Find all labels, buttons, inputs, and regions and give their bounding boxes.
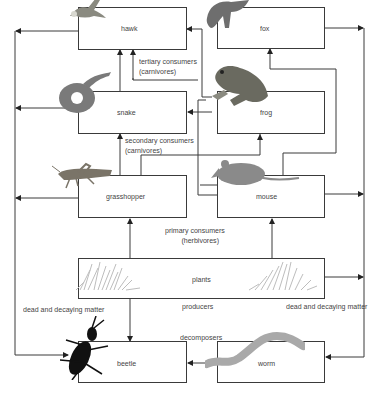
worm-illustration <box>205 330 305 370</box>
beetle-illustration <box>58 316 118 380</box>
mouse-label: mouse <box>256 192 277 201</box>
producers-label: producers <box>182 302 213 312</box>
grass-illustration-left <box>70 258 150 294</box>
mouse-illustration <box>207 160 303 190</box>
fox-illustration <box>205 0 255 34</box>
grasshopper-illustration <box>50 162 116 192</box>
grass-illustration-right <box>245 258 325 294</box>
grasshopper-label: grasshopper <box>106 192 145 201</box>
secondary-consumers-label: secondary consumers (carnivores) <box>125 136 194 156</box>
fox-label: fox <box>260 24 269 33</box>
frog-illustration <box>210 60 272 110</box>
dead-matter-label-left: dead and decaying matter <box>23 305 104 315</box>
tertiary-consumers-label: tertiary consumers (carnivores) <box>139 57 197 77</box>
hawk-label: hawk <box>121 24 137 33</box>
plants-label: plants <box>192 275 211 284</box>
hawk-illustration <box>66 0 110 22</box>
snake-illustration <box>53 66 113 116</box>
dead-matter-label-right: dead and decaying matter <box>286 302 367 312</box>
snake-label: snake <box>117 108 136 117</box>
primary-consumers-label: primary consumers (herbivores) <box>165 226 225 246</box>
beetle-label: beetle <box>117 359 136 368</box>
